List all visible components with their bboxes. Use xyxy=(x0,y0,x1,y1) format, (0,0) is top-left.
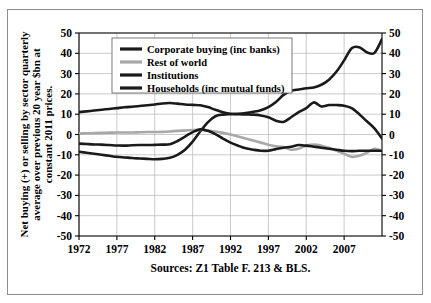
y-tick-label-left: 0 xyxy=(66,129,72,141)
source-caption-text: Sources: Z1 Table F. 213 & BLS. xyxy=(151,262,311,274)
x-tick-label: 1987 xyxy=(181,243,204,255)
y-tick-label-right: -50 xyxy=(389,230,405,242)
y-tick-label-right: -30 xyxy=(389,189,405,201)
y-tick-label-left: -40 xyxy=(57,210,73,222)
y-tick-label-left: 20 xyxy=(61,88,73,100)
x-tick-label: 1997 xyxy=(257,243,280,255)
y-tick-label-left: 50 xyxy=(61,27,73,39)
x-tick-label: 1992 xyxy=(219,243,242,255)
y-tick-label-left: -10 xyxy=(57,149,73,161)
y-tick-label-right: -10 xyxy=(389,149,405,161)
y-tick-label-left: 10 xyxy=(61,108,73,120)
legend-label-1: Rest of world xyxy=(147,57,207,68)
y-axis-title: Net buying (+) or selling by sector quar… xyxy=(18,31,54,237)
y-tick-label-right: 0 xyxy=(389,129,395,141)
y-tick-label-left: 30 xyxy=(61,68,73,80)
x-tick-label: 2007 xyxy=(333,243,356,255)
y-tick-label-right: 20 xyxy=(389,88,401,100)
source-caption: Sources: Z1 Table F. 213 & BLS. xyxy=(151,262,311,274)
y-tick-label-left: -30 xyxy=(57,189,73,201)
legend-label-3: Households (inc mutual funds) xyxy=(147,83,285,95)
y-tick-label-right: 40 xyxy=(389,47,401,59)
y-tick-label-right: 10 xyxy=(389,108,401,120)
legend-label-0: Corporate buying (inc banks) xyxy=(147,44,280,56)
y-tick-label-right: -20 xyxy=(389,169,405,181)
y-tick-label-right: 30 xyxy=(389,68,401,80)
y-tick-label-right: 50 xyxy=(389,27,401,39)
y-axis-title-line: average over previous 20 year $bn at xyxy=(30,48,42,221)
x-tick-label: 2002 xyxy=(295,243,318,255)
y-tick-label-left: 40 xyxy=(61,47,73,59)
legend-label-2: Institutions xyxy=(147,70,198,81)
y-tick-label-left: -50 xyxy=(57,230,73,242)
x-tick-label: 1982 xyxy=(143,243,166,255)
chart-figure: 50403020100-10-20-30-40-5050403020100-10… xyxy=(0,0,431,303)
x-tick-label: 1972 xyxy=(68,243,91,255)
y-axis-title-group: Net buying (+) or selling by sector quar… xyxy=(18,31,54,237)
figure-frame: 50403020100-10-20-30-40-5050403020100-10… xyxy=(7,9,423,295)
y-tick-label-right: -40 xyxy=(389,210,405,222)
y-axis-title-line: constant 2011 prices. xyxy=(42,86,54,184)
y-tick-label-left: -20 xyxy=(57,169,73,181)
chart-legend: Corporate buying (inc banks)Rest of worl… xyxy=(112,38,292,95)
x-tick-label: 1977 xyxy=(105,243,128,255)
line-chart: 50403020100-10-20-30-40-5050403020100-10… xyxy=(8,10,420,292)
